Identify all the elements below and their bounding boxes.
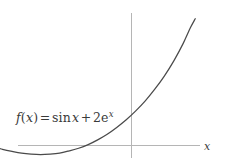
plot-canvas [0,0,226,162]
function-plot-figure: f(x)=sinx+2ex x [0,0,226,162]
function-curve [0,19,195,155]
